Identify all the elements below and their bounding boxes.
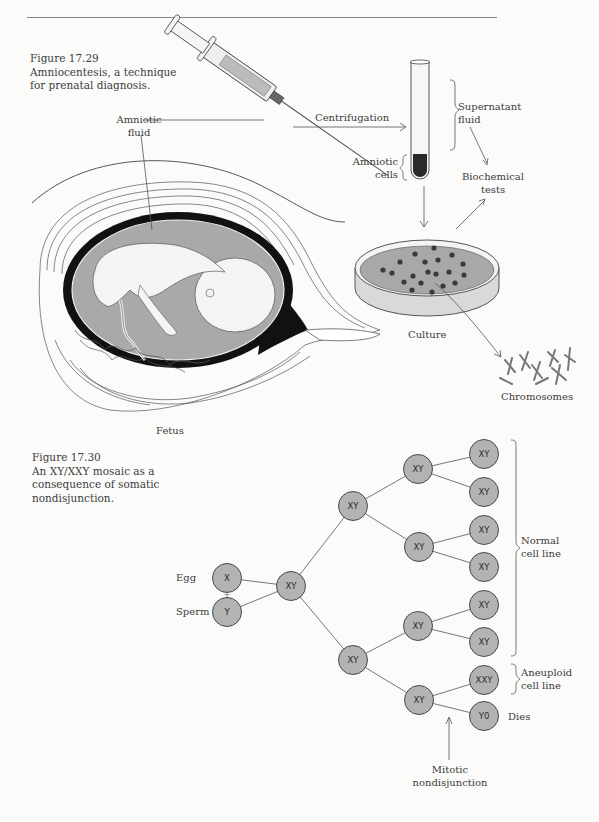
label-line: Amniotic (350, 155, 398, 168)
cell-node-leaf: XY (470, 591, 499, 620)
label-line: cell line (521, 679, 572, 692)
caption-line: nondisjunction. (32, 492, 159, 506)
cell-node-leaf: XY (470, 628, 499, 657)
cell-node-aneuploid: XXY (470, 666, 499, 695)
label-biochemical-tests: Biochemical tests (458, 170, 528, 196)
caption-line: consequence of somatic (32, 478, 159, 492)
cell-node-leaf: XY (470, 516, 499, 545)
label-egg: Egg (176, 571, 196, 584)
svg-text:X: X (224, 573, 230, 583)
label-normal-cell-line: Normal cell line (521, 534, 561, 560)
svg-text:XY: XY (478, 487, 490, 497)
svg-text:XY: XY (347, 655, 359, 665)
label-centrifugation: Centrifugation (315, 111, 389, 124)
test-tube (410, 60, 430, 179)
cell-node: XY (339, 646, 368, 675)
svg-text:XY: XY (285, 581, 297, 591)
cell-node: XY (405, 533, 434, 562)
label-chromosomes: Chromosomes (501, 390, 573, 403)
label-line: Amniotic (114, 113, 164, 126)
normal-cell-line-brace (511, 440, 520, 656)
label-culture: Culture (408, 328, 446, 341)
figure-number: Figure 17.30 (32, 451, 159, 465)
cell-node-sperm: Y (213, 598, 242, 627)
cell-node: XY (404, 612, 433, 641)
label-amniotic-cells: Amniotic cells (350, 155, 398, 181)
label-line: Mitotic (409, 763, 491, 776)
lineage-connectors (227, 440, 520, 760)
cell-node-dies: Y0 (470, 702, 499, 731)
label-line: cells (350, 168, 398, 181)
label-supernatant-fluid: Supernatant fluid (458, 100, 521, 126)
label-mitotic-nondisjunction: Mitotic nondisjunction (409, 763, 491, 789)
label-line: fluid (458, 113, 521, 126)
svg-text:XY: XY (413, 542, 425, 552)
svg-text:XY: XY (478, 600, 490, 610)
figure-17-30-caption: Figure 17.30 An XY/XXY mosaic as a conse… (32, 451, 159, 505)
label-line: cell line (521, 547, 561, 560)
label-sperm: Sperm (176, 605, 209, 618)
svg-text:XY: XY (412, 464, 424, 474)
label-amniotic-fluid: Amniotic fluid (114, 113, 164, 139)
svg-text:Y0: Y0 (478, 711, 490, 721)
cell-node-zygote: XY (277, 572, 306, 601)
aneuploid-cell-line-brace (511, 664, 520, 694)
label-line: fluid (114, 126, 164, 139)
petri-dish (355, 240, 499, 316)
svg-text:Y: Y (223, 607, 230, 617)
label-line: tests (458, 183, 528, 196)
svg-text:XY: XY (347, 501, 359, 511)
label-plus: + (220, 587, 234, 600)
cell-node-leaf: XY (470, 553, 499, 582)
svg-text:XY: XY (412, 621, 424, 631)
chromosomes (500, 348, 575, 384)
label-line: Biochemical (458, 170, 528, 183)
cell-pellet (413, 154, 427, 177)
svg-text:XY: XY (478, 562, 490, 572)
cell-node-leaf: XY (470, 478, 499, 507)
label-line: Aneuploid (521, 666, 572, 679)
svg-text:XY: XY (413, 695, 425, 705)
label-aneuploid-cell-line: Aneuploid cell line (521, 666, 572, 692)
label-line: nondisjunction (409, 776, 491, 789)
label-fetus: Fetus (156, 424, 184, 437)
label-line: Supernatant (458, 100, 521, 113)
cell-node: XY (339, 492, 368, 521)
label-line: Normal (521, 534, 561, 547)
svg-text:XY: XY (478, 637, 490, 647)
label-dies: Dies (508, 710, 530, 723)
cell-node: XY (405, 686, 434, 715)
caption-line: An XY/XXY mosaic as a (32, 465, 159, 479)
svg-text:XY: XY (478, 525, 490, 535)
svg-text:XXY: XXY (476, 675, 494, 685)
